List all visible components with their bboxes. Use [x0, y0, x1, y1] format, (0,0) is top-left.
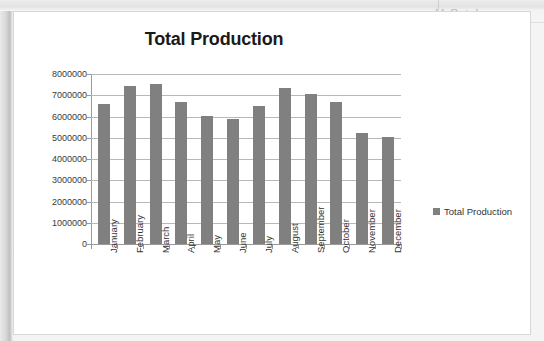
x-axis-tick-label: March: [160, 227, 171, 253]
legend-label-total-production: Total Production: [444, 206, 512, 217]
y-axis-tick: [87, 95, 91, 96]
x-axis-tick-label: August: [289, 223, 300, 253]
bar: [150, 84, 162, 244]
y-axis-tick-label: 4000000: [52, 154, 87, 164]
x-axis-tick-label: April: [185, 234, 196, 253]
y-axis-tick-label: 1000000: [52, 218, 87, 228]
bar: [279, 88, 291, 244]
gridline: [91, 74, 401, 75]
gridline: [91, 138, 401, 139]
y-axis-tick: [87, 159, 91, 160]
page-left-edge: [0, 0, 13, 341]
gridline: [91, 117, 401, 118]
x-axis-labels: JanuaryFebruaryMarchAprilMayJuneJulyAugu…: [91, 253, 411, 333]
x-axis-tick-label: January: [108, 219, 119, 253]
y-axis-tick-label: 7000000: [52, 90, 87, 100]
x-axis-tick-label: November: [366, 209, 377, 253]
x-axis-tick-label: May: [211, 235, 222, 253]
y-axis-tick: [87, 180, 91, 181]
gridline: [91, 202, 401, 203]
chart-legend: Total Production: [433, 206, 512, 217]
y-axis-tick-label: 6000000: [52, 112, 87, 122]
x-axis-tick-label: June: [237, 232, 248, 253]
legend-swatch-total-production: [433, 208, 440, 215]
x-axis-tick-label: September: [315, 207, 326, 253]
gridline: [91, 180, 401, 181]
chart-panel: Total Production 80000007000000600000050…: [13, 11, 531, 335]
bar: [227, 119, 239, 244]
x-axis-tick-label: December: [392, 209, 403, 253]
y-axis-tick: [87, 74, 91, 75]
x-axis-tick-label: July: [263, 236, 274, 253]
y-axis-tick: [87, 223, 91, 224]
gridline: [91, 159, 401, 160]
x-axis-tick: [91, 244, 92, 249]
y-axis-labels: 8000000700000060000005000000400000030000…: [14, 74, 87, 245]
bar: [253, 106, 265, 244]
chart-title: Total Production: [14, 29, 414, 50]
x-axis-tick-label: February: [134, 215, 145, 253]
bar: [175, 102, 187, 244]
y-axis-tick-label: 2000000: [52, 197, 87, 207]
y-axis-tick-label: 8000000: [52, 69, 87, 79]
y-axis-tick-label: 5000000: [52, 133, 87, 143]
bar: [201, 116, 213, 244]
x-axis-tick-label: October: [340, 219, 351, 253]
gridline: [91, 95, 401, 96]
y-axis-tick: [87, 117, 91, 118]
y-axis-tick: [87, 202, 91, 203]
y-axis-tick-label: 3000000: [52, 175, 87, 185]
y-axis-tick: [87, 138, 91, 139]
